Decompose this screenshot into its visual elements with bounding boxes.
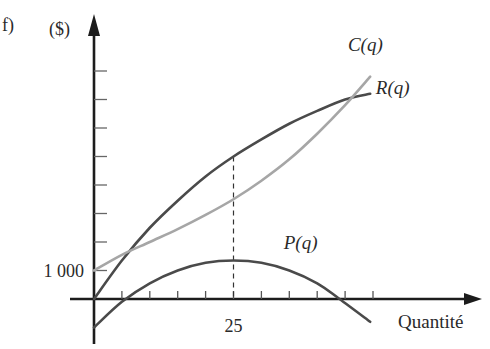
label-p: P(q) [283,232,318,254]
y-axis-arrow-icon [88,14,100,36]
y-axis-label: ($) [49,19,70,40]
label-r: R(q) [375,77,410,99]
label-c: C(q) [348,34,383,56]
labels-group: R(q)C(q)P(q) [283,34,410,254]
x-axis-label: Quantité [398,311,463,332]
x-tick-label: 25 [225,316,243,336]
curve-r [94,94,370,299]
series-group [94,77,370,328]
x-axis-arrow-icon [464,293,482,305]
y-tick-label: 1 000 [44,261,85,281]
figure-label: f) [2,15,14,36]
chart: f) ($) 251 000 R(q)C(q)P(q) Quantité [0,0,490,349]
